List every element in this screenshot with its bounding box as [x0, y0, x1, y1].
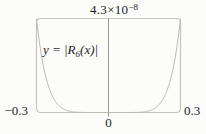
y-max-label: 4.3×10−8 — [36, 0, 192, 17]
x-tick-min: −0.3 — [0, 104, 28, 118]
curve-equation-label: y = |R6(x)| — [43, 43, 98, 61]
plot-canvas — [0, 0, 206, 134]
equation-post: (x)| — [80, 42, 98, 57]
x-tick-max: 0.3 — [184, 104, 200, 118]
y-max-mantissa: 4.3×10 — [90, 2, 128, 17]
y-max-exponent: −8 — [128, 2, 138, 12]
equation-pre: y = |R — [43, 42, 76, 57]
x-tick-origin: 0 — [98, 116, 119, 130]
figure: 4.3×10−8 y = |R6(x)| −0.3 0 0.3 — [0, 0, 206, 134]
